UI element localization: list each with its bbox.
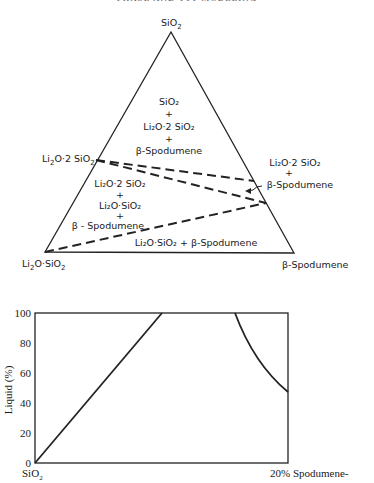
series-ascending-liquidus [35, 313, 162, 463]
vertex-label-beta-spodumene: β-Spodumene [282, 259, 349, 270]
region-label-right: Li₂O·2 SiO₂ + β-Spodumene [267, 157, 334, 190]
svg-text:20: 20 [20, 427, 32, 439]
svg-text:Li₂O·2 SiO₂: Li₂O·2 SiO₂ [94, 178, 145, 189]
svg-text:+: + [165, 133, 173, 144]
svg-text:100: 100 [15, 307, 32, 319]
svg-text:+: + [285, 167, 293, 178]
svg-text:+: + [116, 189, 124, 200]
liquid-chart: 0 20 40 60 80 100 Liquid (%) SiO2 20% Sp… [2, 307, 349, 482]
chart-frame [35, 313, 288, 463]
edge-label-li2o-2sio2: Li2O·2 SiO2 [42, 153, 95, 167]
x-axis-label-left: SiO2 [22, 467, 43, 482]
x-axis-label-right: 20% Spodumene- [270, 467, 349, 479]
series-descending-liquidus [235, 313, 288, 392]
figure-canvas: SiO2 Li2O·SiO2 β-Spodumene Li2O·2 SiO2 S… [0, 0, 374, 483]
region-label-bottom: Li₂O·SiO₂ + β-Spodumene [135, 237, 258, 248]
svg-text:Li₂O·2 SiO₂: Li₂O·2 SiO₂ [269, 157, 320, 168]
y-tick-labels: 0 20 40 60 80 100 [15, 307, 32, 469]
ternary-diagram: SiO2 Li2O·SiO2 β-Spodumene Li2O·2 SiO2 S… [22, 17, 349, 272]
svg-text:60: 60 [20, 367, 32, 379]
svg-text:β - Spodumene: β - Spodumene [72, 220, 145, 231]
svg-text:80: 80 [20, 337, 32, 349]
vertex-label-li2o-sio2: Li2O·SiO2 [22, 258, 66, 272]
vertex-label-sio2: SiO2 [161, 17, 182, 31]
svg-text:40: 40 [20, 397, 32, 409]
svg-text:β-Spodumene: β-Spodumene [136, 145, 203, 156]
svg-text:+: + [165, 108, 173, 119]
svg-text:SiO₂: SiO₂ [159, 96, 179, 107]
svg-text:β-Spodumene: β-Spodumene [267, 179, 334, 190]
y-axis-label: Liquid (%) [2, 365, 15, 414]
region-label-top: SiO₂ + Li₂O·2 SiO₂ + β-Spodumene [136, 96, 203, 156]
svg-text:Li₂O·2 SiO₂: Li₂O·2 SiO₂ [143, 121, 194, 132]
